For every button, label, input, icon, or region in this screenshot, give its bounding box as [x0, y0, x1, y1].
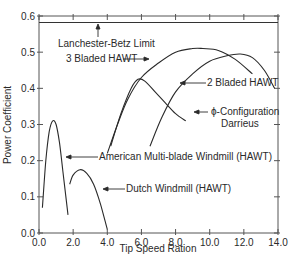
arrow-head-icon: [66, 155, 71, 159]
arrow-head-icon: [180, 81, 185, 85]
y-tick-label: 0.6: [21, 11, 35, 22]
y-tick-label: 0.0: [21, 228, 35, 239]
y-tick-label: 0.5: [21, 47, 35, 58]
y-axis-label: Power Coefficient: [2, 86, 13, 164]
y-tick-label: 0.3: [21, 119, 35, 130]
betz-limit-label: Lanchester-Betz Limit: [58, 38, 155, 49]
annotation-labels: Lanchester-Betz Limit 3 Bladed HAWT 2 Bl…: [58, 38, 279, 194]
x-tick-label: 10.0: [200, 237, 220, 248]
x-tick-label: 12.0: [234, 237, 254, 248]
x-tick-label: 2.0: [66, 237, 80, 248]
arrow-head-icon: [144, 57, 149, 61]
arrow-head-icon: [103, 187, 108, 191]
x-axis-label: Tip Speed Ration: [120, 243, 197, 254]
two-bladed-label: 2 Bladed HAWT: [207, 77, 278, 88]
x-tick-label: 0.0: [32, 237, 46, 248]
american-label: American Multi-blade Windmill (HAWT): [99, 151, 272, 162]
dutch-label: Dutch Windmill (HAWT): [126, 183, 231, 194]
series-line-dutch-windmill-hawt: [70, 170, 108, 230]
power-coefficient-chart: 0.02.04.06.08.010.012.014.0 0.00.10.20.3…: [0, 0, 292, 256]
x-tick-label: 4.0: [100, 237, 114, 248]
darrieus-label-line1: ϕ-Configuration: [211, 106, 279, 117]
arrow-head-icon: [194, 110, 199, 114]
three-bladed-label: 3 Bladed HAWT: [66, 53, 137, 64]
y-tick-label: 0.2: [21, 155, 35, 166]
series-line-american-multi-blade-windmill-hawt: [42, 120, 68, 214]
y-tick-label: 0.4: [21, 83, 35, 94]
series-line-2-bladed-hawt: [150, 54, 275, 146]
arrow-head-icon: [96, 24, 100, 29]
x-tick-label: 14.0: [268, 237, 288, 248]
darrieus-label-line2: Darrieus: [221, 118, 259, 129]
y-tick-labels: 0.00.10.20.30.40.50.6: [21, 11, 35, 239]
series-curves: [42, 48, 274, 229]
y-tick-label: 0.1: [21, 191, 35, 202]
